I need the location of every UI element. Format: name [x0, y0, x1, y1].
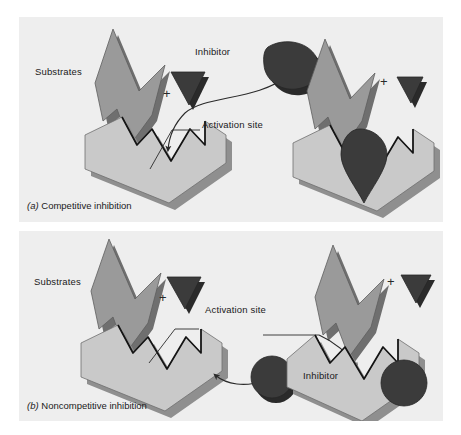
inhibitor-triangle-left [171, 72, 209, 110]
panel-competitive-inhibition: Substrates Inhibitor Activation site + +… [19, 17, 443, 222]
inhibitor-triangle-right [397, 77, 427, 108]
caption-letter-b: (b) [27, 400, 39, 411]
label-inhibitor-b: Inhibitor [303, 371, 338, 381]
inhibitor-bound-allosteric-site [381, 360, 427, 406]
enzyme-right-inhibited [293, 125, 440, 218]
caption-text-b: Noncompetitive inhibition [41, 400, 147, 411]
caption-letter-a: (a) [27, 200, 39, 211]
label-activation-site-b: Activation site [205, 305, 266, 315]
substrate-free-right-b [315, 245, 389, 363]
substrate-triangle-left-b [167, 277, 205, 314]
caption-panel-a: (a) Competitive inhibition [27, 201, 132, 211]
label-inhibitor-a: Inhibitor [195, 47, 230, 57]
substrate-triangle-right-b [401, 275, 435, 308]
enzyme-inhibition-figure: Substrates Inhibitor Activation site + +… [0, 0, 461, 435]
plus-sign-right-a: + [380, 75, 388, 88]
plus-sign-left-a: + [163, 87, 171, 100]
plus-sign-left-b: + [159, 291, 167, 304]
caption-text-a: Competitive inhibition [41, 200, 131, 211]
enzyme-left [85, 117, 232, 210]
label-activation-site-a: Activation site [202, 120, 263, 130]
label-substrates-b: Substrates [34, 277, 81, 287]
plus-sign-right-b: + [387, 275, 395, 288]
panel-noncompetitive-inhibition: Substrates Activation site Inhibitor + +… [19, 231, 443, 421]
label-substrates-a: Substrates [35, 67, 82, 77]
caption-panel-b: (b) Noncompetitive inhibition [27, 401, 147, 411]
panel-b-artwork [19, 231, 443, 421]
